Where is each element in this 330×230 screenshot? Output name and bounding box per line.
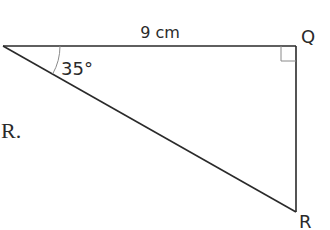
triangle-diagram: 9 cm 35° Q R R. [0, 0, 330, 230]
triangle-svg: 9 cm 35° Q R R. [0, 0, 330, 230]
right-angle-marker [281, 46, 296, 61]
vertex-label-r: R [299, 211, 312, 230]
angle-label: 35° [61, 58, 93, 79]
vertex-label-q: Q [301, 26, 315, 47]
angle-arc [53, 46, 60, 74]
side-label-top: 9 cm [140, 23, 180, 42]
side-hypotenuse [3, 46, 296, 212]
stray-text: R. [1, 118, 21, 143]
